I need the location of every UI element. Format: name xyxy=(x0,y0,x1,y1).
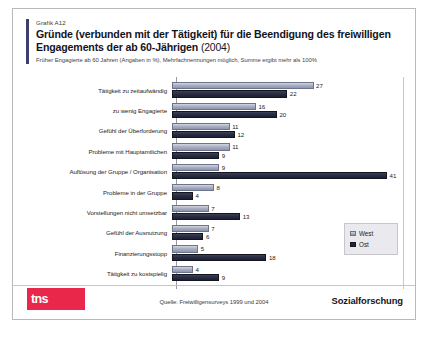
category-label: Probleme mit Hauptamtlichen xyxy=(26,148,172,155)
bar-west[interactable]: 9 xyxy=(172,164,225,171)
bar-value-ost: 6 xyxy=(206,233,209,240)
bar-value-ost: 18 xyxy=(269,254,276,261)
legend-item-west[interactable]: West xyxy=(350,228,392,239)
bar-value-ost: 22 xyxy=(290,90,297,97)
bar-rect-ost xyxy=(172,172,387,179)
chart-slide: Grafik A12 Gründe (verbunden mit der Tät… xyxy=(12,8,416,320)
bar-rect-ost xyxy=(172,192,193,199)
category-label: zu wenig Engagierte xyxy=(26,107,172,114)
bar-ost[interactable]: 22 xyxy=(172,90,297,97)
category-label: Finanzierungsstopp xyxy=(26,250,172,257)
sozialforschung-label: Sozialforschung xyxy=(332,295,403,306)
bar-ost[interactable]: 9 xyxy=(172,274,225,281)
bar-row: Tätigkeit zu kostspielig49 xyxy=(26,264,404,284)
chart-area: Tätigkeit zu zeitaufwändig2722zu wenig E… xyxy=(26,77,404,289)
bar-west[interactable]: 7 xyxy=(172,225,215,232)
bar-rect-ost xyxy=(172,131,235,138)
bar-rect-west xyxy=(172,266,193,273)
bar-ost[interactable]: 20 xyxy=(172,111,286,118)
bar-west[interactable]: 5 xyxy=(172,245,204,252)
bar-rect-west xyxy=(172,103,256,110)
bar-value-ost: 41 xyxy=(390,172,397,179)
bar-row: Probleme mit Hauptamtlichen119 xyxy=(26,141,404,161)
bar-row: Tätigkeit zu zeitaufwändig2722 xyxy=(26,80,404,100)
chart-header: Grafik A12 Gründe (verbunden mit der Tät… xyxy=(26,19,404,64)
bar-west[interactable]: 4 xyxy=(172,266,199,273)
bar-ost[interactable]: 41 xyxy=(172,172,396,179)
bar-group: 84 xyxy=(172,182,404,202)
bar-rect-ost xyxy=(172,90,287,97)
bar-rect-ost xyxy=(172,254,266,261)
bar-value-west: 8 xyxy=(216,184,219,191)
bar-west[interactable]: 8 xyxy=(172,184,220,191)
bar-rect-west xyxy=(172,143,230,150)
chart-legend: West Ost xyxy=(344,223,398,255)
category-label: Auflösung der Gruppe / Organisation xyxy=(26,168,172,175)
category-label: Gefühl der Ausnutzung xyxy=(26,229,172,236)
bar-value-west: 16 xyxy=(258,103,265,110)
bar-value-ost: 9 xyxy=(222,152,225,159)
bar-rect-ost xyxy=(172,233,203,240)
bar-west[interactable]: 16 xyxy=(172,103,265,110)
chart-subtitle: Früher Engagierte ab 60 Jahren (Angaben … xyxy=(36,56,404,64)
category-label: Probleme in der Gruppe xyxy=(26,189,172,196)
bar-rect-west xyxy=(172,225,209,232)
bar-value-ost: 20 xyxy=(279,111,286,118)
legend-item-ost[interactable]: Ost xyxy=(350,239,392,250)
bar-west[interactable]: 27 xyxy=(172,82,323,89)
page-title: Gründe (verbunden mit der Tätigkeit) für… xyxy=(36,28,404,54)
bar-group: 2722 xyxy=(172,80,404,100)
bar-ost[interactable]: 4 xyxy=(172,192,199,199)
bar-ost[interactable]: 6 xyxy=(172,233,209,240)
bar-row: Vorstellungen nicht umsetzbar713 xyxy=(26,202,404,222)
bar-value-west: 7 xyxy=(211,205,214,212)
category-label: Gefühl der Überforderung xyxy=(26,127,172,134)
bar-value-ost: 12 xyxy=(237,131,244,138)
bar-row: Gefühl der Überforderung1112 xyxy=(26,121,404,141)
bar-value-west: 9 xyxy=(222,164,225,171)
bar-rect-west xyxy=(172,184,214,191)
bar-value-ost: 4 xyxy=(195,192,198,199)
bar-value-ost: 13 xyxy=(243,213,250,220)
bar-group: 1620 xyxy=(172,100,404,120)
bar-rect-west xyxy=(172,82,314,89)
bar-rect-ost xyxy=(172,152,219,159)
bar-value-west: 27 xyxy=(316,82,323,89)
bar-rect-ost xyxy=(172,213,240,220)
bar-ost[interactable]: 18 xyxy=(172,254,276,261)
figure-number: Grafik A12 xyxy=(36,19,404,27)
bar-value-west: 11 xyxy=(232,143,238,150)
bar-ost[interactable]: 12 xyxy=(172,131,244,138)
bar-group: 119 xyxy=(172,141,404,161)
legend-label-ost: Ost xyxy=(359,241,369,248)
bar-row: Probleme in der Gruppe84 xyxy=(26,182,404,202)
bar-rect-west xyxy=(172,205,209,212)
bar-rect-ost xyxy=(172,274,219,281)
bar-value-west: 5 xyxy=(201,245,204,252)
bar-group: 713 xyxy=(172,202,404,222)
legend-label-west: West xyxy=(359,230,373,237)
bar-rect-ost xyxy=(172,111,277,118)
bar-rect-west xyxy=(172,164,219,171)
bar-ost[interactable]: 9 xyxy=(172,152,225,159)
bar-value-west: 4 xyxy=(195,266,198,273)
bar-group: 941 xyxy=(172,162,404,182)
category-label: Tätigkeit zu zeitaufwändig xyxy=(26,87,172,94)
bar-group: 1112 xyxy=(172,121,404,141)
bar-value-west: 7 xyxy=(211,225,214,232)
bar-row: Auflösung der Gruppe / Organisation941 xyxy=(26,162,404,182)
bar-value-ost: 9 xyxy=(222,274,225,281)
category-label: Vorstellungen nicht umsetzbar xyxy=(26,209,172,216)
bar-row: zu wenig Engagierte1620 xyxy=(26,100,404,120)
bar-group: 49 xyxy=(172,264,404,284)
category-label: Tätigkeit zu kostspielig xyxy=(26,270,172,277)
bar-west[interactable]: 7 xyxy=(172,205,215,212)
bar-west[interactable]: 11 xyxy=(172,123,239,130)
legend-swatch-ost-icon xyxy=(350,242,356,248)
bar-rect-west xyxy=(172,245,198,252)
bar-ost[interactable]: 13 xyxy=(172,213,249,220)
bar-value-west: 11 xyxy=(232,123,238,130)
bar-west[interactable]: 11 xyxy=(172,143,239,150)
title-year: (2004) xyxy=(201,42,230,53)
chart-footer: tns infratest Quelle: Freiwilligensurvey… xyxy=(13,285,415,319)
